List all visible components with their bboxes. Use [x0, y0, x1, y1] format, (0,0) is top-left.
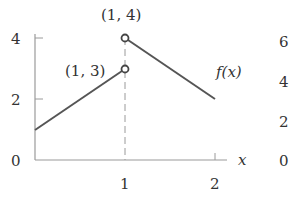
x-tick-label-2: 2 [210, 175, 220, 193]
y-tick-label-2: 2 [11, 91, 21, 109]
annotation-point-1-4: (1, 4) [101, 6, 141, 24]
right-tick-label-4: 4 [279, 73, 289, 91]
right-tick-label-0: 0 [279, 152, 289, 170]
chart: 4 2 0 1 2 x (1, 4) (1, 3) f(x) 6 4 2 0 [0, 0, 299, 209]
x-axis-label: x [238, 151, 247, 169]
right-tick-label-2: 2 [279, 113, 289, 131]
f-right-segment [128, 40, 215, 99]
function-label: f(x) [215, 63, 242, 81]
open-point-1-3 [122, 66, 129, 73]
right-tick-label-6: 6 [279, 33, 289, 51]
x-tick-label-1: 1 [120, 175, 130, 193]
annotation-point-1-3: (1, 3) [65, 62, 105, 80]
y-tick-label-0: 0 [11, 152, 21, 170]
open-point-1-4 [122, 35, 129, 42]
y-tick-label-4: 4 [11, 30, 21, 48]
